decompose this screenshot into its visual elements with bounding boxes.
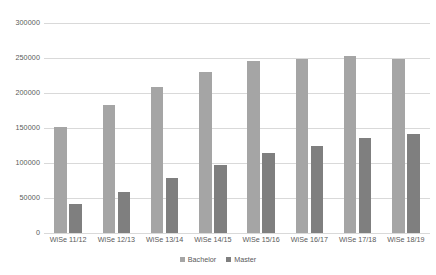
bar-master[interactable] bbox=[262, 153, 275, 233]
bar-bachelor[interactable] bbox=[54, 127, 67, 233]
legend-swatch-icon bbox=[180, 257, 185, 262]
y-axis-tick-label: 250000 bbox=[0, 54, 40, 61]
y-axis: 050000100000150000200000250000300000 bbox=[0, 0, 40, 275]
x-axis: WiSe 11/12WiSe 12/13WiSe 13/14WiSe 14/15… bbox=[44, 236, 430, 252]
plot-area bbox=[44, 23, 430, 233]
bar-group bbox=[189, 23, 237, 233]
x-axis-tick-label: WiSe 12/13 bbox=[92, 236, 140, 243]
legend-label: Master bbox=[234, 256, 256, 263]
bar-group bbox=[237, 23, 285, 233]
x-axis-tick-label: WiSe 16/17 bbox=[285, 236, 333, 243]
x-axis-tick-label: WiSe 11/12 bbox=[44, 236, 92, 243]
gridline bbox=[44, 233, 430, 234]
legend-item-bachelor[interactable]: Bachelor bbox=[180, 256, 216, 263]
bar-bachelor[interactable] bbox=[151, 87, 164, 233]
y-axis-tick-label: 300000 bbox=[0, 19, 40, 26]
bar-bachelor[interactable] bbox=[199, 72, 212, 233]
bar-group bbox=[382, 23, 430, 233]
bar-bachelor[interactable] bbox=[296, 59, 309, 233]
chart-legend: BachelorMaster bbox=[0, 256, 436, 263]
bar-bachelor[interactable] bbox=[392, 59, 405, 233]
bar-bachelor[interactable] bbox=[344, 56, 357, 233]
bar-master[interactable] bbox=[214, 165, 227, 233]
bar-group bbox=[141, 23, 189, 233]
bar-master[interactable] bbox=[118, 192, 131, 233]
bar-group bbox=[44, 23, 92, 233]
x-axis-tick-label: WiSe 13/14 bbox=[141, 236, 189, 243]
bar-master[interactable] bbox=[407, 134, 420, 233]
legend-label: Bachelor bbox=[188, 256, 216, 263]
y-axis-tick-label: 150000 bbox=[0, 124, 40, 131]
y-axis-tick-label: 50000 bbox=[0, 194, 40, 201]
legend-item-master[interactable]: Master bbox=[226, 256, 256, 263]
bar-bachelor[interactable] bbox=[247, 61, 260, 233]
bar-bachelor[interactable] bbox=[103, 105, 116, 233]
bar-master[interactable] bbox=[166, 178, 179, 233]
bar-group bbox=[285, 23, 333, 233]
y-axis-tick-label: 0 bbox=[0, 229, 40, 236]
bar-master[interactable] bbox=[311, 146, 324, 233]
x-axis-tick-label: WiSe 14/15 bbox=[189, 236, 237, 243]
y-axis-tick-label: 100000 bbox=[0, 159, 40, 166]
x-axis-tick-label: WiSe 17/18 bbox=[334, 236, 382, 243]
bar-group bbox=[92, 23, 140, 233]
x-axis-tick-label: WiSe 18/19 bbox=[382, 236, 430, 243]
y-axis-tick-label: 200000 bbox=[0, 89, 40, 96]
bar-master[interactable] bbox=[69, 204, 82, 233]
bar-master[interactable] bbox=[359, 138, 372, 233]
x-axis-tick-label: WiSe 15/16 bbox=[237, 236, 285, 243]
legend-swatch-icon bbox=[226, 257, 231, 262]
bar-chart: 050000100000150000200000250000300000 WiS… bbox=[0, 0, 436, 275]
bar-group bbox=[334, 23, 382, 233]
